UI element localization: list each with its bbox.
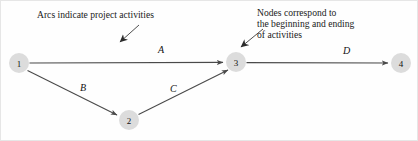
arc-c-line — [139, 70, 229, 115]
node-1: 1 — [9, 53, 29, 73]
node-4: 4 — [391, 53, 411, 73]
nodes-annotation-text: Nodes correspond to the beginning and en… — [257, 7, 354, 41]
node-2: 2 — [119, 110, 139, 130]
arc-label-b: B — [80, 82, 86, 93]
arc-label-a: A — [158, 44, 164, 55]
node-3: 3 — [226, 52, 246, 72]
diagram-canvas: 1 2 3 4 — [1, 1, 418, 141]
node-3-label: 3 — [234, 58, 239, 68]
arc-a-line — [30, 62, 224, 63]
arc-label-c: C — [170, 83, 177, 94]
node-4-label: 4 — [399, 59, 404, 69]
arc-b-line — [28, 71, 118, 116]
arcs-annotation-text: Arcs indicate project activities — [37, 9, 154, 20]
nodes-annotation-line-1: Nodes correspond to — [257, 7, 336, 18]
nodes-annotation-line-2: the beginning and ending — [257, 18, 354, 29]
nodes-annotation-line-3: of activities — [257, 29, 302, 40]
node-2-label: 2 — [127, 116, 132, 126]
arcs-note-leader-line — [120, 25, 139, 42]
node-1-label: 1 — [17, 59, 22, 69]
arc-label-d: D — [343, 45, 350, 56]
network-diagram-figure: 1 2 3 4 Arcs indicate project activities… — [0, 0, 418, 141]
